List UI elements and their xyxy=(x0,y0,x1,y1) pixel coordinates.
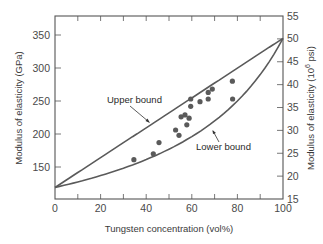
data-point xyxy=(206,90,211,95)
y-tick-label-right: 55 xyxy=(287,10,299,22)
data-point xyxy=(230,96,235,101)
y-tick-label-left: 150 xyxy=(32,161,50,173)
y-axis-title-left: Modulus of elasticity (GPa) xyxy=(13,51,24,165)
y-tick-label-right: 40 xyxy=(287,78,299,90)
y-tick-label-right: 45 xyxy=(287,55,299,67)
y-tick-label-left: 200 xyxy=(32,128,50,140)
data-point xyxy=(206,96,211,101)
y-tick-label-right: 50 xyxy=(287,32,299,44)
data-point xyxy=(182,112,187,117)
data-point xyxy=(176,133,181,138)
data-point xyxy=(188,104,193,109)
x-tick-label: 80 xyxy=(232,202,244,214)
lower-bound-arrowhead xyxy=(213,130,217,134)
x-tick-label: 60 xyxy=(186,202,198,214)
lower-bound-label: Lower bound xyxy=(196,141,251,152)
upper-bound-line xyxy=(55,38,283,187)
y-axis-title-right: Modulus of elasticity (106 psi) xyxy=(304,46,316,170)
data-point xyxy=(151,151,156,156)
x-tick-label: 40 xyxy=(140,202,152,214)
bound-curves xyxy=(55,38,283,187)
y-tick-label-right: 20 xyxy=(287,170,299,182)
plot-border xyxy=(55,16,283,199)
y-tick-label-left: 300 xyxy=(32,62,50,74)
upper-bound-label: Upper bound xyxy=(107,94,162,105)
y-tick-label-right: 30 xyxy=(287,124,299,136)
y-tick-label-left: 250 xyxy=(32,95,50,107)
data-point xyxy=(173,127,178,132)
data-point xyxy=(184,122,189,127)
composite-modulus-chart: 0204060801001502002503003501520253035404… xyxy=(0,0,323,244)
plot-frame xyxy=(55,16,283,199)
y-tick-label-right: 35 xyxy=(287,101,299,113)
data-point xyxy=(210,87,215,92)
y-tick-label-left: 350 xyxy=(32,29,50,41)
data-point xyxy=(131,157,136,162)
x-tick-label: 20 xyxy=(95,202,107,214)
data-point xyxy=(188,96,193,101)
upper-bound-arrow xyxy=(130,106,149,122)
x-axis-title: Tungsten concentration (vol%) xyxy=(105,223,234,234)
y-tick-label-right: 15 xyxy=(287,193,299,205)
data-point xyxy=(230,79,235,84)
data-point xyxy=(156,140,161,145)
data-point xyxy=(187,116,192,121)
data-point xyxy=(197,99,202,104)
y-tick-label-right: 25 xyxy=(287,147,299,159)
x-tick-label: 0 xyxy=(52,202,58,214)
